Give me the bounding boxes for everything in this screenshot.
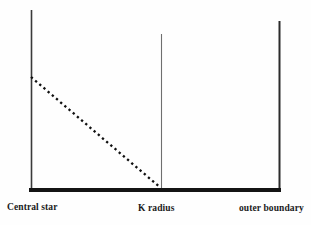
dotted-decline-line [31, 77, 159, 186]
figure-canvas: Central star K radius outer boundary [0, 0, 311, 225]
diagram-svg [0, 0, 311, 225]
label-central-star: Central star [7, 202, 58, 213]
label-k-radius: K radius [138, 203, 174, 214]
label-outer-boundary: outer boundary [239, 203, 304, 214]
